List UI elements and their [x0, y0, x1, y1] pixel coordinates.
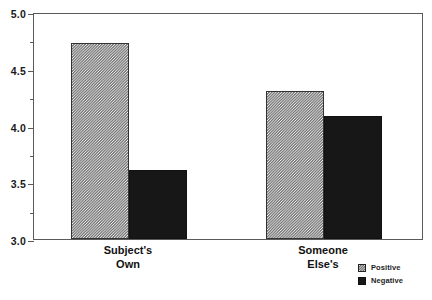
y-axis-tick-mark [30, 42, 34, 43]
bar-chart-figure: 5.04.54.03.53.0 Positive Negative Subjec… [0, 0, 432, 300]
y-axis-tick-mark [28, 241, 34, 242]
y-axis-tick-label: 3.5 [11, 178, 26, 190]
y-axis-tick-mark [28, 71, 34, 72]
plot-frame: 5.04.54.03.53.0 [33, 13, 423, 240]
y-axis-tick-label: 4.0 [11, 122, 26, 134]
y-axis-tick-label: 4.5 [11, 65, 26, 77]
x-axis-group-label: Someone Else's [265, 244, 381, 271]
bar-negative [129, 170, 187, 239]
y-axis-tick-mark [30, 99, 34, 100]
bar-positive [266, 91, 324, 239]
x-axis-group-label: Subject's Own [70, 244, 186, 271]
legend-label-negative: Negative [371, 276, 403, 285]
bar-positive [71, 43, 129, 239]
y-axis-tick-label: 3.0 [11, 235, 26, 247]
y-axis-tick-label: 5.0 [11, 8, 26, 20]
plot-area: 5.04.54.03.53.0 [34, 14, 422, 239]
y-axis-tick-mark [28, 14, 34, 15]
y-axis-tick-mark [30, 213, 34, 214]
y-axis-tick-mark [30, 156, 34, 157]
y-axis-tick-mark [28, 184, 34, 185]
legend-swatch-negative-icon [358, 277, 366, 285]
legend-item-negative: Negative [358, 275, 403, 286]
y-axis-tick-mark [28, 128, 34, 129]
bar-negative [324, 116, 382, 239]
